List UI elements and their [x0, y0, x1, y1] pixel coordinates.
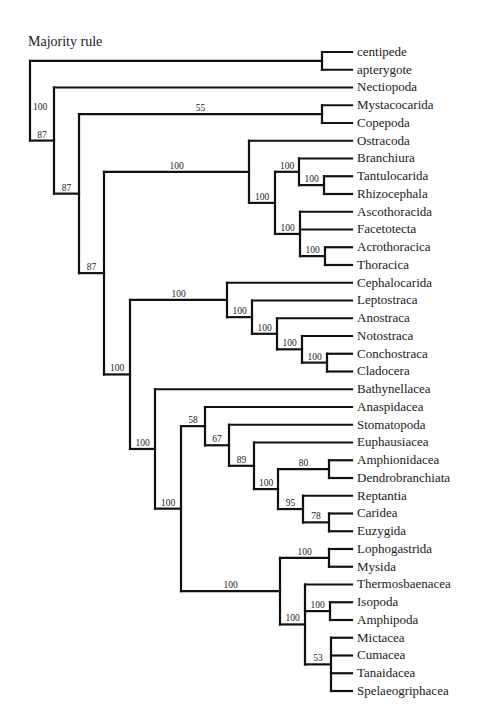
support-value: 53: [313, 653, 323, 663]
support-value: 95: [286, 498, 296, 508]
support-value: 67: [212, 434, 222, 444]
taxon-label: Mictacea: [357, 630, 405, 645]
taxon-label: Bathynellacea: [357, 381, 431, 396]
support-value: 100: [305, 245, 320, 255]
support-value: 89: [237, 455, 247, 465]
taxon-label: Branchiura: [357, 150, 415, 165]
taxon-label: Mysida: [357, 559, 396, 574]
support-value: 100: [257, 323, 272, 333]
taxon-label: Thermosbaenacea: [357, 576, 451, 591]
phylogenetic-tree: centipedeapterygote87Nectiopoda8755Mysta…: [0, 0, 477, 723]
taxon-label: centipede: [357, 44, 407, 59]
taxon-label: Cephalocarida: [357, 275, 432, 290]
support-value: 100: [135, 438, 150, 448]
taxon-label: Mystacocarida: [357, 97, 434, 112]
support-value: 100: [223, 580, 238, 590]
taxon-label: Copepoda: [357, 115, 410, 130]
taxon-label: Cladocera: [357, 363, 410, 378]
taxon-label: Dendrobranchiata: [357, 470, 450, 485]
support-value: 87: [87, 262, 97, 272]
support-value: 100: [285, 613, 300, 623]
support-value: 100: [161, 498, 176, 508]
taxon-label: Lophogastrida: [357, 541, 432, 556]
taxon-label: Stomatopoda: [357, 417, 426, 432]
taxon-label: Facetotecta: [357, 221, 416, 236]
taxon-label: apterygote: [357, 62, 412, 77]
support-value: 100: [171, 289, 186, 299]
support-value: 100: [232, 306, 247, 316]
taxon-label: Leptostraca: [357, 292, 418, 307]
taxon-label: Nectiopoda: [357, 79, 417, 94]
taxon-label: Anaspidacea: [357, 399, 424, 414]
taxon-label: Tantulocarida: [357, 168, 429, 183]
support-value: 100: [280, 161, 295, 171]
support-value: 100: [310, 600, 325, 610]
taxon-label: Isopoda: [357, 594, 398, 609]
support-value: 55: [196, 103, 206, 113]
taxon-label: Amphipoda: [357, 612, 419, 627]
support-value-root: 100: [33, 102, 48, 112]
support-value: 87: [62, 183, 72, 193]
taxon-label: Cumacea: [357, 647, 406, 662]
taxon-label: Rhizocephala: [357, 186, 428, 201]
taxon-label: Reptantia: [357, 488, 407, 503]
taxon-label: Thoracica: [357, 257, 409, 272]
support-value: 100: [282, 338, 297, 348]
support-value: 100: [259, 478, 274, 488]
support-value: 100: [304, 174, 319, 184]
taxon-label: Amphionidacea: [357, 452, 440, 467]
taxon-label: Euphausiacea: [357, 434, 429, 449]
support-value: 100: [255, 192, 270, 202]
support-value: 100: [307, 352, 322, 362]
support-value: 100: [110, 363, 125, 373]
taxon-label: Euzygida: [357, 523, 406, 538]
taxon-label: Acrothoracica: [357, 239, 431, 254]
taxon-label: Ostracoda: [357, 133, 410, 148]
support-value: 100: [280, 223, 295, 233]
taxon-label: Conchostraca: [357, 346, 428, 361]
taxon-label: Anostraca: [357, 310, 410, 325]
support-value: 78: [311, 511, 321, 521]
support-value: 58: [188, 415, 198, 425]
taxon-label: Spelaeogriphacea: [357, 683, 449, 698]
support-value: 100: [297, 547, 312, 557]
support-value: 100: [169, 161, 184, 171]
taxon-label: Caridea: [357, 505, 398, 520]
taxon-label: Tanaidacea: [357, 665, 415, 680]
support-value: 87: [37, 130, 47, 140]
taxon-label: Ascothoracida: [357, 204, 432, 219]
taxon-label: Notostraca: [357, 328, 414, 343]
support-value: 80: [299, 458, 309, 468]
